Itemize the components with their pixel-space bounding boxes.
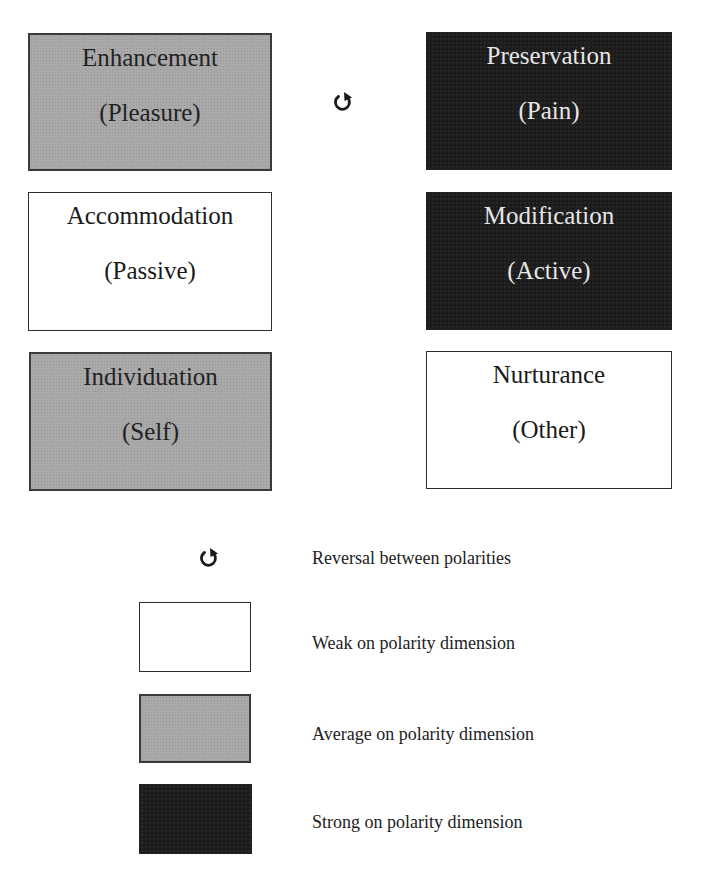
legend-label-weak: Weak on polarity dimension <box>312 632 515 654</box>
reversal-arrow-icon <box>332 90 354 112</box>
box-title: Enhancement <box>82 43 218 73</box>
legend-swatch-strong <box>139 784 252 854</box>
legend-swatch-weak <box>139 602 251 672</box>
legend-swatch-average <box>139 694 251 763</box>
box-title: Nurturance <box>493 360 605 390</box>
box-subtitle: (Pleasure) <box>99 98 200 128</box>
box-title: Individuation <box>83 362 218 392</box>
box-enhancement: Enhancement (Pleasure) <box>28 33 272 171</box>
box-individuation: Individuation (Self) <box>29 352 272 491</box>
box-subtitle: (Self) <box>122 417 179 447</box>
box-title: Accommodation <box>67 201 234 231</box>
box-subtitle: (Pain) <box>518 96 579 126</box>
legend-label-strong: Strong on polarity dimension <box>312 811 523 833</box>
box-subtitle: (Active) <box>507 256 590 286</box>
legend-label-average: Average on polarity dimension <box>312 723 534 745</box>
box-preservation: Preservation (Pain) <box>426 32 672 170</box>
box-title: Preservation <box>487 41 612 71</box>
box-nurturance: Nurturance (Other) <box>426 351 672 489</box>
reversal-arrow-icon <box>198 546 220 568</box>
legend-label-reversal: Reversal between polarities <box>312 547 511 569</box>
box-subtitle: (Passive) <box>104 256 196 286</box>
box-accommodation: Accommodation (Passive) <box>28 192 272 331</box>
box-subtitle: (Other) <box>512 415 586 445</box>
box-modification: Modification (Active) <box>426 192 672 330</box>
box-title: Modification <box>484 201 615 231</box>
